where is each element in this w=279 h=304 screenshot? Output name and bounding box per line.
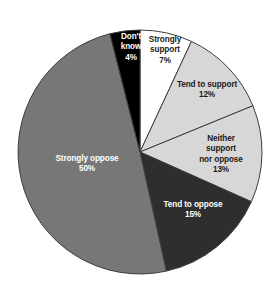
pie-chart-canvas xyxy=(0,0,279,304)
pie-chart: Strongly support7%Tend to support12%Neit… xyxy=(0,0,279,304)
pie-slice-group xyxy=(18,30,262,274)
